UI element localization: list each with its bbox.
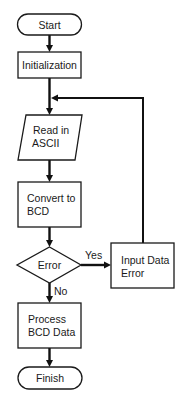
edge-label-yes: Yes [85,249,102,261]
arrowhead-icon [51,95,58,102]
node-start-label: Start [38,19,60,31]
node-process-bcd-line2: BCD Data [28,326,75,338]
arrowhead-icon [46,296,53,303]
node-input-data-error-line1: Input Data [121,254,170,266]
node-read-ascii: Read in ASCII [18,115,82,160]
arrowhead-icon [46,45,53,52]
arrowhead-icon [46,175,53,182]
edge-label-no: No [54,285,68,297]
node-convert-bcd-line2: BCD [27,205,50,217]
node-process-bcd: Process BCD Data [18,303,81,348]
node-error-decision-label: Error [38,259,62,271]
node-error-decision: Error [17,247,81,283]
node-finish: Finish [18,367,82,389]
arrowhead-icon [104,262,111,269]
node-initialization-label: Initialization [22,59,77,71]
arrowhead-icon [46,360,53,367]
node-start: Start [18,14,82,35]
arrowhead-icon [46,108,53,115]
node-input-data-error-line2: Error [121,267,145,279]
node-read-ascii-line2: ASCII [32,137,59,149]
node-finish-label: Finish [36,372,64,384]
node-read-ascii-line1: Read in [33,124,69,136]
node-convert-bcd-line1: Convert to [27,192,76,204]
arrowhead-icon [46,240,53,247]
node-initialization: Initialization [18,52,81,78]
node-process-bcd-line1: Process [28,313,66,325]
node-convert-bcd: Convert to BCD [18,182,81,227]
node-input-data-error: Input Data Error [111,243,174,288]
flowchart: Start Initialization Read in ASCII Conve… [0,0,185,404]
